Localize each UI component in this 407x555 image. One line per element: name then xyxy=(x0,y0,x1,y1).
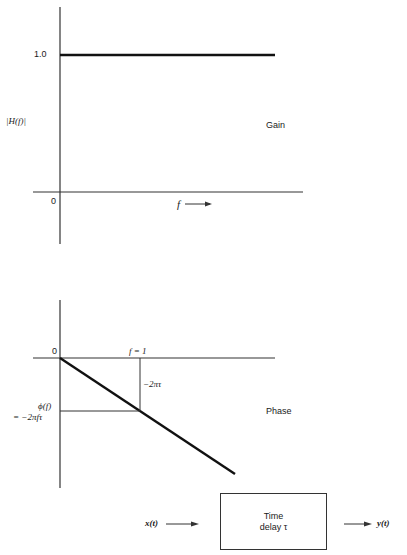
gain-y-label: |H(f)| xyxy=(6,117,26,126)
phase-title: Phase xyxy=(266,407,292,416)
phase-curve xyxy=(60,358,235,474)
time-delay-block: Time delay τ xyxy=(220,493,327,550)
phase-y-label-1: ϕ(f) xyxy=(38,402,51,411)
output-arrow-head xyxy=(364,522,372,527)
phase-y-label-2: = −2πfτ xyxy=(13,413,42,422)
input-arrow-head xyxy=(191,522,199,527)
input-label: x(t) xyxy=(145,519,158,528)
diagram-lines xyxy=(0,0,407,555)
block-line-2: delay τ xyxy=(221,522,326,533)
output-label: y(t) xyxy=(377,519,390,528)
phase-origin-label: 0 xyxy=(52,347,57,356)
gain-origin-label: 0 xyxy=(51,197,56,206)
f-arrow-head xyxy=(205,202,212,207)
gain-x-label: f xyxy=(177,199,180,210)
gain-y-tick: 1.0 xyxy=(34,50,47,59)
drop-label: −2πτ xyxy=(143,380,161,389)
f1-label: f = 1 xyxy=(129,347,147,356)
gain-title: Gain xyxy=(266,121,285,130)
block-line-1: Time xyxy=(221,511,326,522)
